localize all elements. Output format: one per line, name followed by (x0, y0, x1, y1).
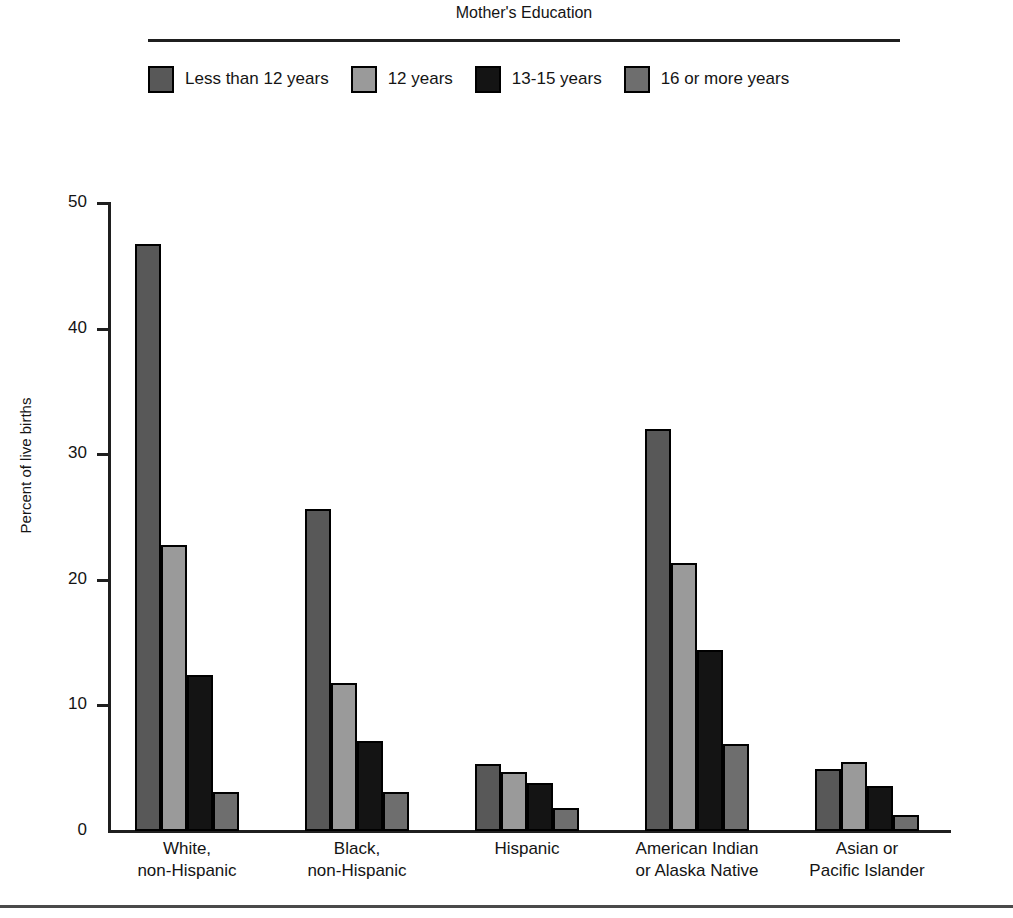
bar[interactable] (893, 815, 919, 831)
x-axis-category-label-line: Asian or (767, 838, 967, 860)
bar[interactable] (697, 650, 723, 831)
bar-group (135, 203, 239, 831)
bar[interactable] (553, 808, 579, 831)
bar[interactable] (305, 509, 331, 831)
bar[interactable] (161, 545, 187, 831)
x-axis-category-label-line: non-Hispanic (257, 860, 457, 882)
bar[interactable] (723, 744, 749, 831)
bar[interactable] (135, 244, 161, 831)
bar[interactable] (527, 783, 553, 831)
bar[interactable] (331, 683, 357, 831)
bar-group (305, 203, 409, 831)
bar-chart: Percent of live births 01020304050 White… (0, 0, 1013, 918)
footer-divider (0, 905, 1013, 908)
bar[interactable] (357, 741, 383, 831)
bar[interactable] (187, 675, 213, 831)
bar[interactable] (671, 563, 697, 831)
bars-layer (0, 0, 1013, 918)
bar[interactable] (841, 762, 867, 831)
x-axis-category-label-line: Pacific Islander (767, 860, 967, 882)
bar-group (475, 203, 579, 831)
bar[interactable] (501, 772, 527, 831)
x-axis-category-label: Asian orPacific Islander (767, 838, 967, 882)
bar[interactable] (213, 792, 239, 831)
bar[interactable] (645, 429, 671, 831)
bar[interactable] (815, 769, 841, 831)
bar[interactable] (475, 764, 501, 831)
bar[interactable] (867, 786, 893, 831)
bar-group (645, 203, 749, 831)
bar[interactable] (383, 792, 409, 831)
bar-group (815, 203, 919, 831)
